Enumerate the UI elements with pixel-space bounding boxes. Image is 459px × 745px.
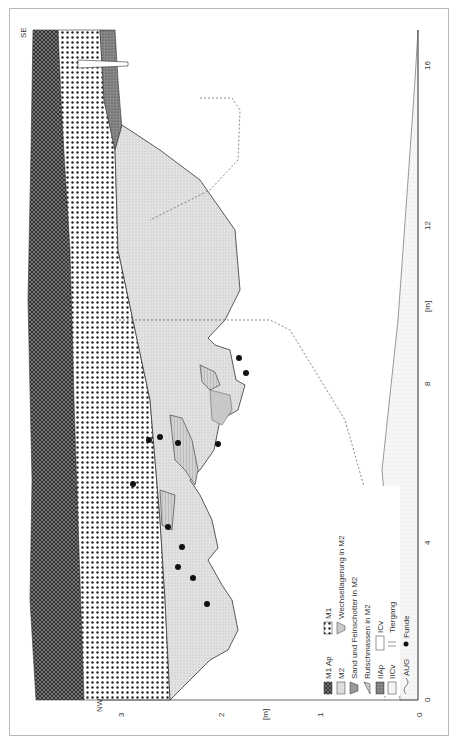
svg-text:Tiergang: Tiergang — [388, 602, 397, 633]
svg-text:Funde: Funde — [402, 615, 411, 638]
svg-text:AUG: AUG — [402, 659, 411, 676]
svg-text:16: 16 — [423, 61, 432, 70]
svg-text:ICv: ICv — [376, 621, 385, 633]
nw-label: NW — [95, 698, 104, 712]
x-axis-ticks: 0 4 8 12 16 [m] — [423, 61, 432, 702]
svg-text:[m]: [m] — [261, 709, 270, 720]
geological-profile: 0 4 8 12 16 [m] 0 1 2 3 [m] NW SE M1 Ap … — [0, 0, 459, 745]
svg-text:M2: M2 — [337, 667, 346, 679]
se-label: SE — [19, 27, 28, 38]
legend-item-iiap: IIAp — [376, 664, 385, 694]
svg-text:4: 4 — [423, 540, 432, 545]
svg-text:IICv: IICv — [388, 665, 397, 679]
slump-mass — [160, 490, 175, 530]
svg-text:1: 1 — [316, 712, 325, 717]
svg-text:Wechsellagerung in M2: Wechsellagerung in M2 — [337, 535, 346, 619]
legend: M1 Ap M1 M2 Wechsellagerung in M2 Sand u… — [322, 486, 411, 696]
svg-text:0: 0 — [423, 697, 432, 702]
svg-text:IIAp: IIAp — [376, 664, 385, 679]
svg-text:M1 Ap: M1 Ap — [324, 656, 333, 679]
svg-text:Rutschmassen in M2: Rutschmassen in M2 — [363, 604, 372, 679]
svg-text:12: 12 — [423, 221, 432, 230]
svg-text:8: 8 — [423, 381, 432, 386]
svg-text:0: 0 — [415, 712, 424, 717]
legend-item-sand: Sand und Feinschotter in M2 — [350, 576, 359, 694]
legend-item-wechsellagerung: Wechsellagerung in M2 — [337, 535, 346, 634]
sand-lens — [210, 390, 232, 425]
svg-text:3: 3 — [117, 712, 126, 717]
legend-item-m1-ap: M1 Ap — [324, 656, 333, 694]
svg-text:[m]: [m] — [423, 301, 432, 312]
y-axis-ticks: 0 1 2 3 [m] — [117, 709, 424, 720]
svg-text:2: 2 — [217, 712, 226, 717]
legend-item-iicv: IICv — [388, 665, 397, 694]
svg-text:Sand und Feinschotter in M2: Sand und Feinschotter in M2 — [350, 576, 359, 679]
svg-text:M1: M1 — [324, 607, 333, 619]
burrow-icon — [78, 60, 128, 68]
